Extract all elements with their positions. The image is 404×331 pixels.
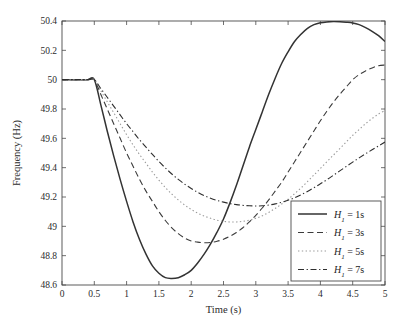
y-tick-label: 49 <box>48 222 58 232</box>
y-axis-title: Frequency (Hz) <box>11 119 23 186</box>
x-tick-label: 1.5 <box>153 289 165 299</box>
x-tick-label: 2.5 <box>218 289 230 299</box>
y-tick-label: 50 <box>48 75 58 85</box>
x-axis-title: Time (s) <box>206 304 242 316</box>
x-tick-label: 4 <box>318 289 323 299</box>
x-tick-label: 1 <box>124 289 129 299</box>
legend[interactable]: H1 = 1sH1 = 3sH1 = 5sH1 = 7s <box>291 201 381 281</box>
y-tick-label: 48.6 <box>40 280 57 290</box>
x-tick-label: 4.5 <box>347 289 359 299</box>
figure-container: 00.511.522.533.544.5548.648.84949.249.44… <box>0 0 404 331</box>
x-tick-label: 0 <box>60 289 65 299</box>
x-tick-label: 3 <box>253 289 258 299</box>
y-tick-label: 50.4 <box>40 16 57 26</box>
y-tick-label: 48.8 <box>40 251 57 261</box>
y-tick-label: 49.8 <box>40 104 57 114</box>
x-tick-label: 5 <box>383 289 388 299</box>
y-tick-label: 49.4 <box>40 163 57 173</box>
y-tick-label: 49.2 <box>40 192 57 202</box>
frequency-vs-time-chart: 00.511.522.533.544.5548.648.84949.249.44… <box>0 0 404 331</box>
y-tick-label: 50.2 <box>40 46 57 56</box>
series-line-3 <box>62 79 385 222</box>
x-tick-label: 3.5 <box>282 289 294 299</box>
x-tick-label: 2 <box>189 289 194 299</box>
y-tick-label: 49.6 <box>40 134 57 144</box>
x-tick-label: 0.5 <box>88 289 100 299</box>
